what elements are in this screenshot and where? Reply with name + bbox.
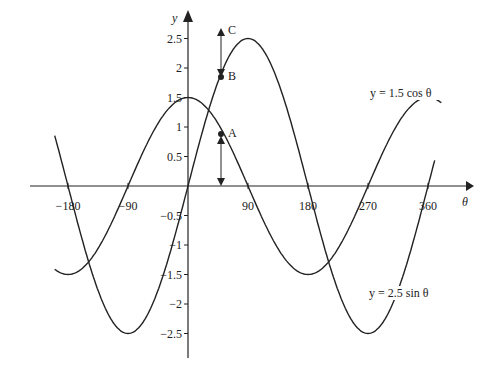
- y-tick-label: 1: [176, 120, 182, 134]
- point-c-label: C: [228, 23, 236, 37]
- y-axis-arrow-icon: [183, 10, 193, 22]
- point-a-label: A: [228, 126, 237, 140]
- y-tick-label: −2.5: [160, 327, 182, 341]
- y-tick-label: −2: [169, 297, 182, 311]
- x-tick-label: 90: [242, 199, 254, 213]
- y-tick-label: 2.5: [167, 32, 182, 46]
- arrow-a-top-icon: [217, 136, 225, 144]
- sin-curve-label: y = 2.5 sin θ: [369, 286, 429, 300]
- trig-graph: y θ −180−9090180270360 2.521.510.5−0.5−1…: [0, 0, 492, 378]
- point-a: [218, 131, 224, 137]
- y-tick-label: 2: [176, 61, 182, 75]
- arrow-c-top-icon: [217, 28, 225, 36]
- point-b-label: B: [228, 69, 236, 83]
- y-axis-label: y: [171, 11, 178, 25]
- cos-curve-label: y = 1.5 cos θ: [370, 86, 432, 100]
- x-axis-label: θ: [462, 195, 468, 209]
- x-ticks: −180−9090180270360: [56, 183, 437, 213]
- point-b: [218, 74, 224, 80]
- x-tick-label: −180: [56, 199, 81, 213]
- y-tick-label: 0.5: [167, 150, 182, 164]
- x-axis-arrow-icon: [466, 181, 474, 191]
- arrow-a-bottom-icon: [217, 178, 225, 186]
